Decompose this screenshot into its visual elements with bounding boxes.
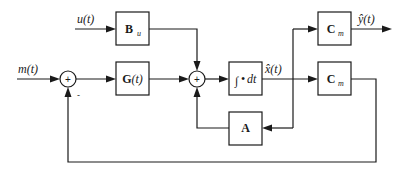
block-bu: B u	[116, 12, 149, 45]
block-a: A	[229, 112, 262, 145]
sum1-plus-sign: +	[65, 74, 71, 85]
arrowhead-xhat-cm-bottom	[308, 76, 318, 83]
block-diagram: + - + B u G(t) ∫ • dt C m C m A	[0, 0, 406, 171]
block-cm-bottom-label: C	[327, 72, 336, 86]
block-g-arg: (t)	[132, 72, 143, 86]
arrowhead-branch-a	[262, 125, 272, 132]
block-g-label: G	[122, 72, 131, 86]
wire-bu-sum2	[149, 29, 197, 67]
integrator-dt: dt	[247, 72, 257, 86]
block-a-label: A	[241, 121, 250, 135]
block-cm-top: C m	[318, 12, 351, 45]
arrowhead-sum1-g	[106, 76, 116, 83]
block-cm-top-subscript: m	[338, 29, 344, 38]
input-u-label: u(t)	[77, 12, 94, 26]
block-g: G(t)	[116, 62, 149, 95]
output-yhat-label: ŷ(t)	[357, 12, 375, 26]
arrowhead-a-sum2	[194, 87, 201, 97]
wire-a-sum2	[197, 91, 229, 128]
summing-junction-1: +	[60, 71, 76, 87]
svg-text:B: B	[125, 22, 133, 36]
block-cm-bottom: C m	[318, 62, 351, 95]
sum2-plus-sign: +	[194, 74, 200, 85]
block-integrator: ∫ • dt	[229, 62, 262, 95]
signal-xhat-label: x̂(t)	[264, 62, 282, 76]
block-bu-subscript: u	[137, 29, 141, 38]
arrowhead-u-bu	[106, 26, 116, 33]
arrowhead-bu-sum2	[194, 61, 201, 71]
summing-junction-2: +	[189, 71, 205, 87]
arrowhead-sum2-integrator	[219, 76, 229, 83]
block-cm-bottom-subscript: m	[338, 79, 344, 88]
block-cm-top-label: C	[327, 22, 336, 36]
arrowhead-g-sum2	[179, 76, 189, 83]
input-m-label: m(t)	[18, 62, 38, 76]
arrowhead-branch-cm-top	[308, 26, 318, 33]
arrowhead-m-sum1	[50, 76, 60, 83]
integrand-dot: •	[241, 72, 245, 86]
integral-symbol: ∫	[234, 74, 239, 88]
arrowhead-feedback-sum1	[65, 87, 72, 97]
arrowhead-yhat-output	[382, 26, 392, 33]
svg-text:G(t): G(t)	[122, 72, 143, 86]
block-bu-label: B	[125, 22, 133, 36]
sum1-minus-sign: -	[77, 90, 80, 100]
